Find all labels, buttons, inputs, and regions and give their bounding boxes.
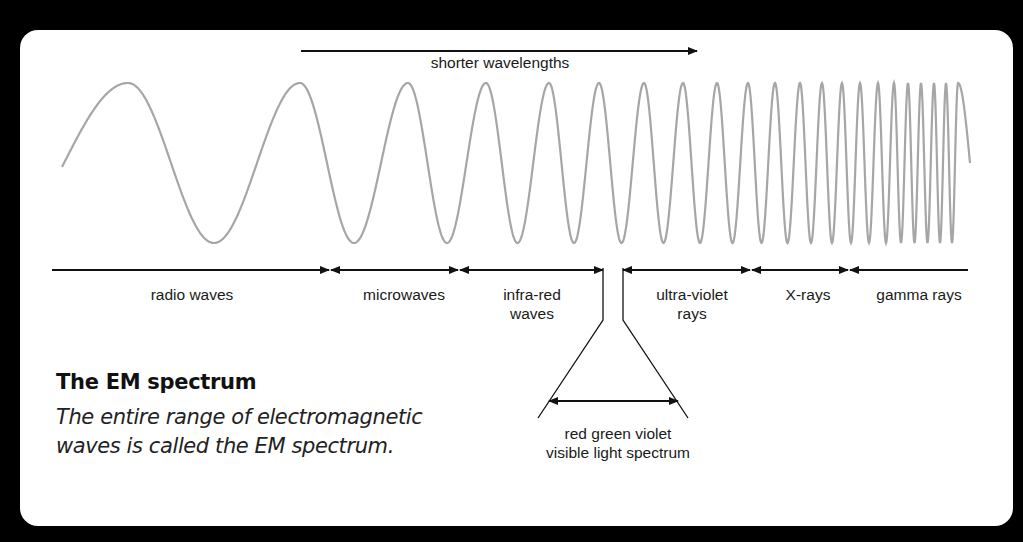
region-label-ultraviolet: ultra-violet rays [656,285,728,323]
diagram-description: The entire range of electromagnetic wave… [56,403,422,461]
wave-line [62,83,970,243]
region-label-infrared: infra-red waves [503,285,561,323]
region-label-microwaves: microwaves [363,285,445,304]
region-label-xrays: X-rays [786,285,831,304]
visible-light-label: red green violet visible light spectrum [546,424,690,462]
region-label-gamma: gamma rays [876,285,961,304]
shorter-wavelengths-label: shorter wavelengths [431,53,570,72]
diagram-title: The EM spectrum [56,370,256,394]
region-label-radio: radio waves [151,285,234,304]
